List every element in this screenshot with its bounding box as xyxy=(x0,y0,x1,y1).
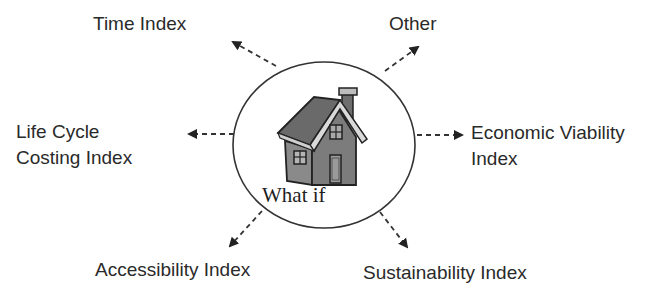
arrow-access xyxy=(230,211,262,246)
node-lcc-line2: Costing Index xyxy=(16,146,132,169)
node-accessibility-index: Accessibility Index xyxy=(95,258,250,281)
node-econ-line1: Economic Viability xyxy=(471,121,625,144)
node-other: Other xyxy=(389,12,437,35)
arrow-other xyxy=(385,47,418,71)
arrow-time xyxy=(233,42,276,66)
node-time-index: Time Index xyxy=(93,12,186,35)
what-if-diagram: What if Time Index Other Life Cycle Cost… xyxy=(0,0,668,297)
center-label: What if xyxy=(262,183,326,208)
node-lcc-line1: Life Cycle xyxy=(16,120,132,143)
node-econ-line2: Index xyxy=(471,147,625,170)
node-sustainability-index: Sustainability Index xyxy=(363,261,527,284)
arrow-sustain xyxy=(380,212,407,247)
node-economic-viability-index: Economic Viability Index xyxy=(471,121,625,170)
house-icon xyxy=(278,88,367,185)
node-life-cycle-costing-index: Life Cycle Costing Index xyxy=(16,120,132,169)
